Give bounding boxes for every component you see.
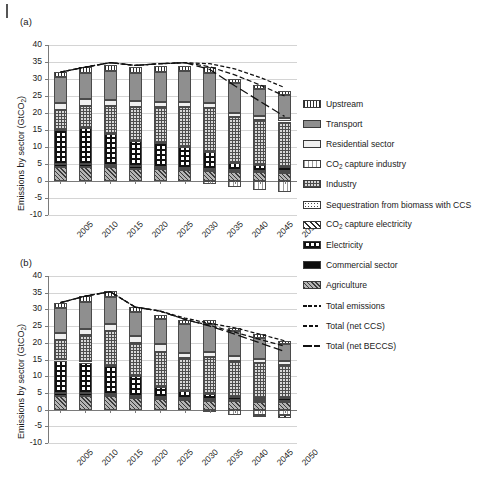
legend-item-total_net_beccs[interactable]: Total (net BECCS) bbox=[303, 340, 396, 351]
legend-label: Industry bbox=[326, 179, 357, 189]
legend-swatch-icon bbox=[303, 241, 321, 249]
legend-item-upstream[interactable]: Upstream bbox=[303, 98, 363, 109]
legend-swatch-icon bbox=[303, 100, 321, 108]
total-line bbox=[60, 292, 284, 352]
total-line bbox=[60, 63, 284, 96]
legend-label: Electricity bbox=[326, 240, 363, 250]
legend-item-agriculture[interactable]: Agriculture bbox=[303, 280, 367, 291]
plot-area-a: Emissions by sector (GtCO2)-10-505101520… bbox=[0, 0, 300, 245]
legend-swatch-icon bbox=[303, 120, 321, 128]
legend-label: Total (net CCS) bbox=[326, 321, 385, 331]
legend-label: Residential sector bbox=[326, 139, 394, 149]
chart-legend: UpstreamTransportResidential sectorCO2 c… bbox=[303, 98, 493, 398]
legend-item-commercial[interactable]: Commercial sector bbox=[303, 260, 398, 271]
legend-item-co2_capture_electricity[interactable]: CO2 capture electricity bbox=[303, 219, 412, 230]
legend-label: Agriculture bbox=[326, 280, 367, 290]
legend-line-icon bbox=[303, 342, 321, 350]
total-line bbox=[60, 292, 284, 341]
legend-item-total_net_ccs[interactable]: Total (net CCS) bbox=[303, 320, 385, 331]
legend-label: Commercial sector bbox=[326, 260, 398, 270]
legend-line-icon bbox=[303, 302, 321, 310]
total-lines-overlay bbox=[0, 0, 300, 255]
plot-area-b: Emissions by sector (GtCO2)-10-505101520… bbox=[0, 245, 300, 481]
legend-swatch-icon bbox=[303, 140, 321, 148]
total-line bbox=[60, 63, 284, 117]
legend-item-total_emissions[interactable]: Total emissions bbox=[303, 300, 385, 311]
legend-item-transport[interactable]: Transport bbox=[303, 118, 362, 129]
legend-swatch-icon bbox=[303, 261, 321, 269]
legend-line-icon bbox=[303, 322, 321, 330]
legend-label: Sequestration from biomass with CCS bbox=[326, 200, 471, 210]
legend-label: CO2 capture industry bbox=[326, 159, 406, 170]
legend-item-industry[interactable]: Industry bbox=[303, 179, 357, 190]
legend-swatch-icon bbox=[303, 160, 321, 168]
legend-swatch-icon bbox=[303, 201, 321, 209]
legend-item-sequestration_beccs[interactable]: Sequestration from biomass with CCS bbox=[303, 199, 471, 210]
legend-item-electricity[interactable]: Electricity bbox=[303, 239, 363, 250]
legend-label: Transport bbox=[326, 119, 362, 129]
x-tick-label: 2050 bbox=[299, 447, 319, 467]
legend-item-residential[interactable]: Residential sector bbox=[303, 138, 394, 149]
total-lines-overlay bbox=[0, 245, 300, 481]
legend-label: Total (net BECCS) bbox=[326, 341, 396, 351]
figure-page: (a) Emissions by sector (GtCO2)-10-50510… bbox=[0, 0, 493, 481]
chart-panel-a: (a) Emissions by sector (GtCO2)-10-50510… bbox=[0, 0, 300, 245]
total-line bbox=[60, 292, 284, 346]
legend-item-co2_capture_industry[interactable]: CO2 capture industry bbox=[303, 159, 406, 170]
legend-swatch-icon bbox=[303, 221, 321, 229]
legend-label: Total emissions bbox=[326, 301, 385, 311]
legend-label: Upstream bbox=[326, 99, 363, 109]
legend-label: CO2 capture electricity bbox=[326, 219, 412, 230]
legend-swatch-icon bbox=[303, 281, 321, 289]
chart-panel-b: (b) Emissions by sector (GtCO2)-10-50510… bbox=[0, 245, 300, 481]
total-line bbox=[60, 63, 284, 88]
legend-swatch-icon bbox=[303, 180, 321, 188]
